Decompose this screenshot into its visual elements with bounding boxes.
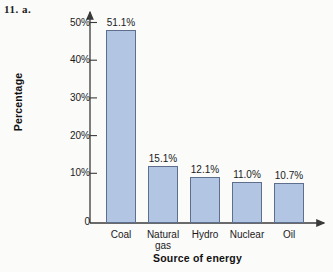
bar-natural-gas[interactable] bbox=[148, 166, 178, 223]
x-axis-title: Source of energy bbox=[90, 252, 305, 264]
category-label-oil: Oil bbox=[263, 229, 315, 240]
bar-value-oil: 10.7% bbox=[264, 170, 314, 181]
bar-hydro[interactable] bbox=[190, 177, 220, 223]
bar-coal[interactable] bbox=[106, 30, 136, 223]
bar-oil[interactable] bbox=[274, 183, 304, 223]
bars-layer: 51.1% 15.1% 12.1% 11.0% 10.7% Coal Natur… bbox=[0, 0, 333, 272]
figure-container: 11. a. Percentage bbox=[0, 0, 333, 272]
bar-nuclear[interactable] bbox=[232, 182, 262, 223]
bar-value-coal: 51.1% bbox=[96, 17, 146, 28]
bar-chart-plot: Percentage 50% 40% 30% 20% 10% 0 51.1% 1… bbox=[0, 0, 333, 272]
bar-value-natural-gas: 15.1% bbox=[138, 153, 188, 164]
